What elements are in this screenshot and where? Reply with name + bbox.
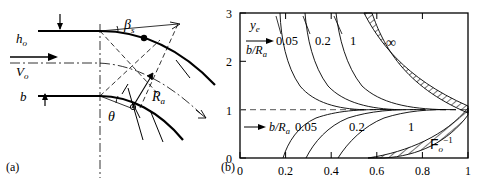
y-axis-label: ye xyxy=(248,17,260,34)
limit-band-lower-hatched xyxy=(368,108,468,158)
label-V0: Vo xyxy=(16,64,29,81)
figure-container: ho Vo b βs θ Ra (a) xyxy=(0,0,484,190)
x-tick-label-0: 0 xyxy=(237,164,243,178)
normal-tick-upper-1 xyxy=(176,60,190,78)
panel-b-label: (b) xyxy=(221,160,235,175)
lower-contour-label-005: 0.05 xyxy=(295,120,317,134)
upper-contour-label-005: 0.05 xyxy=(276,34,298,48)
y-axis-ticks xyxy=(240,13,246,158)
ho-dimension-arrowhead xyxy=(57,23,63,30)
label-h0: ho xyxy=(16,31,28,48)
normal-tick-lower-4 xyxy=(122,84,128,94)
tangent-chord-arrowhead xyxy=(170,22,180,29)
centerline-dashdot xyxy=(10,63,200,113)
x-tick-label-3: 0.6 xyxy=(369,164,384,178)
contour-upper-1 xyxy=(336,13,446,110)
x-tick-label-4: 0.8 xyxy=(415,164,430,178)
contour-upper-0.05 xyxy=(280,13,364,110)
upper-contour-label-infinity: ∞ xyxy=(386,35,396,50)
radius-construction-lower xyxy=(100,40,160,96)
label-b: b xyxy=(20,89,27,104)
upper-contour-label-1: 1 xyxy=(350,34,356,48)
panel-a-label: (a) xyxy=(6,160,19,175)
flow-arrow-head xyxy=(48,53,58,61)
upper-curve-point-marker xyxy=(141,35,147,41)
y-tick-label-3: 3 xyxy=(226,7,232,21)
label-theta: θ xyxy=(108,109,115,124)
contour-upper-0.2 xyxy=(305,13,400,110)
lower-contour-label-02: 0.2 xyxy=(349,120,365,134)
beta-angle-arc xyxy=(117,26,118,31)
panel-a-svg: ho Vo b βs θ Ra xyxy=(0,0,228,190)
upper-contour-label-02: 0.2 xyxy=(315,34,331,48)
panel-a-diagram: ho Vo b βs θ Ra (a) xyxy=(0,0,228,190)
y-tick-label-2: 2 xyxy=(226,55,232,69)
radius-Ra-arrow-line xyxy=(132,75,152,108)
panel-b-chart: ye b/Ra 0.05 0.2 1 ∞ b/Ra 0.05 0.2 1 Fo−… xyxy=(218,0,484,190)
tangent-chord-upper xyxy=(100,24,178,31)
lower-family-arrow xyxy=(244,124,266,130)
upper-wall-curve xyxy=(38,31,215,85)
lower-family-label: b/Ra xyxy=(269,120,290,136)
upper-family-label: b/Ra xyxy=(246,43,267,59)
lower-contour-label-1: 1 xyxy=(408,120,414,134)
x-tick-label-5: 1 xyxy=(465,164,471,178)
x-tick-label-1: 0.2 xyxy=(278,164,293,178)
centerline-arrowhead xyxy=(196,110,206,118)
y-tick-label-1: 1 xyxy=(226,104,232,118)
x-tick-label-2: 0.4 xyxy=(324,164,339,178)
normal-tick-lower-2 xyxy=(128,88,143,140)
panel-b-svg: ye b/Ra 0.05 0.2 1 ∞ b/Ra 0.05 0.2 1 Fo−… xyxy=(218,0,484,190)
label-Ra: Ra xyxy=(151,89,166,106)
